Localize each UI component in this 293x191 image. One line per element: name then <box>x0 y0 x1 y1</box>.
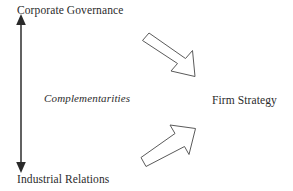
block-arrow-down-right-icon <box>133 30 201 86</box>
block-arrow-up-right-icon <box>133 118 201 174</box>
label-industrial-relations: Industrial Relations <box>17 173 109 186</box>
label-complementarities: Complementarities <box>44 92 130 105</box>
double-headed-vertical-arrow-icon <box>8 14 34 174</box>
label-firm-strategy: Firm Strategy <box>212 94 277 107</box>
diagram-canvas: Corporate Governance Complementarities I… <box>0 0 293 191</box>
